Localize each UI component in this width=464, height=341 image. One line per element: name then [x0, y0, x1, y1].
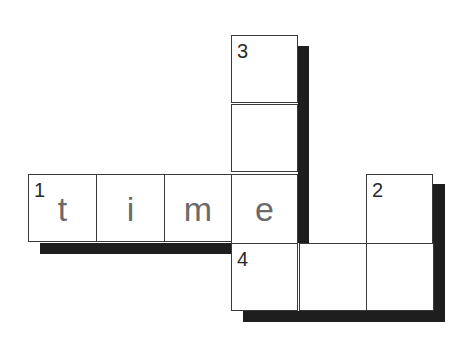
shadow-across-1: [40, 243, 232, 254]
shadow-across-4: [243, 311, 445, 322]
clue-number: 2: [372, 180, 383, 200]
clue-number: 3: [237, 41, 248, 61]
crossword-cell[interactable]: e: [231, 174, 298, 244]
cell-letter: e: [232, 189, 297, 230]
clue-number: 4: [237, 249, 248, 269]
crossword-cell[interactable]: 3: [231, 35, 298, 103]
shadow-down-2: [433, 184, 445, 322]
crossword-cell[interactable]: i: [96, 174, 165, 242]
crossword-cell[interactable]: 2: [366, 174, 433, 244]
cell-letter: t: [29, 189, 96, 230]
crossword-cell[interactable]: [231, 104, 298, 172]
crossword-cell[interactable]: [299, 243, 367, 311]
crossword-cell[interactable]: 4: [231, 243, 298, 311]
cell-letter: i: [97, 189, 164, 230]
crossword-cell[interactable]: m: [164, 174, 232, 242]
crossword-cell[interactable]: [366, 243, 434, 311]
shadow-down-3: [298, 46, 309, 243]
crossword-cell[interactable]: 1 t: [28, 174, 97, 242]
cell-letter: m: [165, 189, 231, 230]
